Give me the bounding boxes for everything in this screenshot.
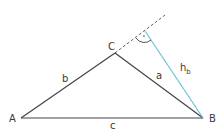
side-b — [21, 53, 115, 118]
side-a — [115, 53, 203, 118]
right-angle-marker — [136, 38, 151, 43]
altitude-label: hb — [180, 62, 191, 76]
vertex-label-b: B — [209, 113, 216, 124]
side-label-c: c — [110, 120, 116, 131]
side-label-a: a — [156, 70, 162, 81]
vertex-label-a: A — [9, 113, 16, 124]
altitude-hb — [145, 31, 203, 118]
side-b-extension — [115, 15, 165, 53]
side-label-b: b — [62, 73, 68, 84]
triangle-diagram: A B C b a c hb — [0, 0, 222, 132]
vertex-label-c: C — [108, 41, 115, 52]
right-angle-dot — [143, 35, 145, 37]
